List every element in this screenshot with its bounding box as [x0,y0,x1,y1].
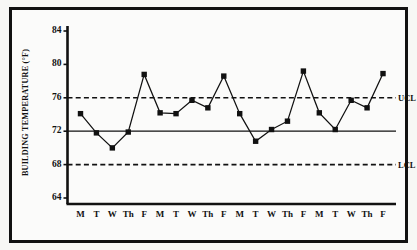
plot-area: BUILDING TEMPERATURE (°F) 646872768084 M… [0,0,417,250]
data-point-marker [269,127,274,132]
data-point-marker [141,72,146,77]
data-point-marker [333,127,338,132]
data-point-marker [78,111,83,116]
data-point-marker [205,105,210,110]
data-point-marker [157,110,162,115]
data-point-marker [173,111,178,116]
lcl-label: LCL [398,160,415,170]
data-point-marker [364,105,369,110]
ucl-label: UCL [398,93,416,103]
chart-canvas [0,0,417,250]
data-point-marker [380,71,385,76]
data-point-marker [221,73,226,78]
data-point-marker [317,110,322,115]
data-point-marker [301,68,306,73]
data-point-marker [285,118,290,123]
data-point-marker [110,145,115,150]
data-point-marker [189,98,194,103]
control-chart-figure: BUILDING TEMPERATURE (°F) 646872768084 M… [0,0,417,250]
data-line [81,71,384,148]
data-point-marker [94,130,99,135]
data-point-marker [126,129,131,134]
data-point-marker [253,139,258,144]
data-point-marker [237,111,242,116]
data-point-marker [348,98,353,103]
